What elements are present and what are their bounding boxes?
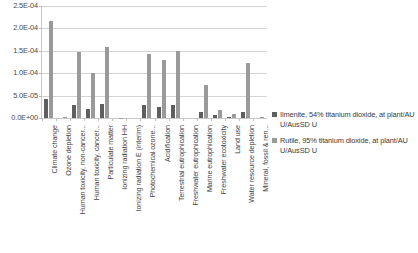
x-axis-category-label: Freshwater ecotoxicity bbox=[220, 125, 228, 194]
x-axis-category-label: Water resource depletion bbox=[248, 125, 256, 203]
legend-item-ilmenite: Ilmenite, 54% titanium dioxide, at plant… bbox=[272, 110, 418, 129]
bar bbox=[232, 114, 236, 118]
plot-area bbox=[41, 6, 267, 119]
bar bbox=[147, 54, 151, 118]
x-axis-labels: Climate changeOzone depletionHuman toxic… bbox=[41, 125, 266, 249]
bar-group bbox=[98, 6, 112, 118]
bar bbox=[227, 117, 231, 118]
x-axis-tick bbox=[126, 118, 127, 121]
bar bbox=[49, 21, 53, 118]
bar bbox=[44, 99, 48, 118]
bar bbox=[171, 105, 175, 118]
y-axis-tick-label: 2.0E-04 bbox=[13, 24, 38, 32]
bar-group bbox=[183, 6, 197, 118]
legend-swatch-icon bbox=[272, 112, 277, 117]
bar bbox=[213, 115, 217, 118]
bar-group bbox=[155, 6, 169, 118]
bar bbox=[176, 51, 180, 118]
x-axis-category-label: Photochemical ozone... bbox=[149, 125, 157, 198]
x-axis-category-label: Particulate matter bbox=[107, 125, 115, 180]
x-axis-tick bbox=[225, 118, 226, 121]
x-axis-category-label: Freshwater eutrophication bbox=[192, 125, 200, 206]
bar bbox=[204, 85, 208, 118]
chart-legend: Ilmenite, 54% titanium dioxide, at plant… bbox=[272, 110, 418, 162]
bar bbox=[199, 112, 203, 118]
bar-group bbox=[211, 6, 225, 118]
y-axis-tick-label: 0.0E+00 bbox=[11, 114, 38, 122]
bar bbox=[105, 47, 109, 118]
y-axis-tick-label: 1.5E-04 bbox=[13, 47, 38, 55]
x-axis-tick bbox=[197, 118, 198, 121]
x-axis-category-label: Ionizing radiation HH bbox=[121, 125, 129, 190]
bar bbox=[91, 73, 95, 118]
x-axis-category-label: Human toxicity, non-cancer... bbox=[79, 125, 87, 214]
x-axis-category-label: Ozone depletion bbox=[65, 125, 73, 176]
bar-chart: 2.5E-042.0E-041.5E-041.0E-045.0E-050.0E+… bbox=[0, 0, 418, 253]
bar-group bbox=[253, 6, 267, 118]
bar-group bbox=[126, 6, 140, 118]
x-axis-tick bbox=[56, 118, 57, 121]
bar bbox=[241, 112, 245, 118]
x-axis-tick bbox=[183, 118, 184, 121]
x-axis-category-label: Mineral, fossil & ren... bbox=[262, 125, 270, 192]
y-axis-tick-label: 5.0E-05 bbox=[13, 92, 38, 100]
legend-swatch-icon bbox=[272, 138, 277, 143]
x-axis-category-label: Land use bbox=[234, 125, 242, 154]
bar bbox=[157, 107, 161, 118]
bar bbox=[86, 109, 90, 118]
x-axis-category-label: Climate change bbox=[51, 125, 59, 174]
bar-group bbox=[56, 6, 70, 118]
x-axis-tick bbox=[84, 118, 85, 121]
x-axis-tick bbox=[42, 118, 43, 121]
x-axis-tick bbox=[70, 118, 71, 121]
x-axis-category-label: Human toxicity, cancer... bbox=[93, 125, 101, 200]
bar bbox=[63, 117, 67, 118]
plot-wrapper: 2.5E-042.0E-041.5E-041.0E-045.0E-050.0E+… bbox=[0, 6, 268, 124]
x-axis-tick bbox=[211, 118, 212, 121]
x-axis-tick bbox=[112, 118, 113, 121]
x-axis-category-label: Marine eutrophication bbox=[206, 125, 214, 192]
bar-group bbox=[70, 6, 84, 118]
bar bbox=[72, 105, 76, 118]
bar bbox=[260, 117, 264, 118]
x-axis-tick bbox=[253, 118, 254, 121]
bar-group bbox=[197, 6, 211, 118]
bar bbox=[142, 105, 146, 118]
x-axis-tick bbox=[98, 118, 99, 121]
legend-item-rutile: Rutile, 95% titanium dioxide, at plant/A… bbox=[272, 136, 418, 155]
y-axis-tick-label: 1.0E-04 bbox=[13, 69, 38, 77]
y-axis-labels: 2.5E-042.0E-041.5E-041.0E-045.0E-050.0E+… bbox=[0, 6, 40, 124]
bar-group bbox=[112, 6, 126, 118]
bar bbox=[218, 110, 222, 118]
bar bbox=[162, 60, 166, 118]
legend-item-label: Ilmenite, 54% titanium dioxide, at plant… bbox=[280, 110, 418, 129]
bar-group bbox=[84, 6, 98, 118]
y-axis-tick-label: 2.5E-04 bbox=[13, 2, 38, 10]
bar-group bbox=[42, 6, 56, 118]
bar-group bbox=[239, 6, 253, 118]
x-axis-tick bbox=[155, 118, 156, 121]
x-axis-category-label: Ionizing radiation E (interim) bbox=[135, 125, 143, 211]
x-axis-category-label: Terrestrial eutrophication bbox=[178, 125, 186, 201]
bar-group bbox=[225, 6, 239, 118]
legend-item-label: Rutile, 95% titanium dioxide, at plant/A… bbox=[280, 136, 418, 155]
bar-group bbox=[169, 6, 183, 118]
bar bbox=[77, 52, 81, 118]
x-axis-category-label: Acidification bbox=[164, 125, 172, 162]
bar-groups bbox=[42, 6, 267, 118]
bar-group bbox=[140, 6, 154, 118]
bar bbox=[246, 63, 250, 118]
x-axis-tick bbox=[169, 118, 170, 121]
x-axis-tick bbox=[239, 118, 240, 121]
bar bbox=[100, 104, 104, 118]
x-axis-tick bbox=[140, 118, 141, 121]
